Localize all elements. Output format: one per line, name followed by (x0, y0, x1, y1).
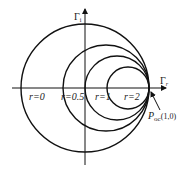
poc-pointer (151, 92, 160, 110)
label-r-2: r=2 (124, 91, 140, 102)
label-r-0: r=0 (29, 91, 45, 102)
imag-axis-label: Γi (74, 11, 82, 23)
smith-chart-diagram: Γi Γr r=0 r=0.5 r=1 r=2 Poc(1,0) (0, 0, 187, 171)
label-r-0-5: r=0.5 (61, 91, 84, 102)
real-axis-label: Γr (160, 75, 169, 87)
poc-label: Poc(1,0) (147, 110, 176, 123)
label-r-1: r=1 (95, 91, 111, 102)
